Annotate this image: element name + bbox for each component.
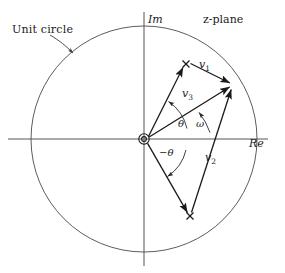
pole-lower-marker [187,213,194,220]
unit-circle-label: Unit circle [12,24,73,35]
figure-canvas: Unit circle z-plane Im Re v1 v2 v3 θ −θ … [0,0,285,273]
pole-upper-marker [183,61,190,68]
real-axis-label: Re [249,138,264,149]
angle-theta-label: θ [178,119,184,129]
unit-circle-pointer [50,35,73,53]
z-plane-label: z-plane [203,14,243,25]
vector-v2 [192,90,232,213]
vector-v2-label-sub: 2 [211,157,216,166]
vector-v3-label: v3 [182,88,193,102]
complex-plane-diagram [0,0,285,273]
imaginary-axis-label: Im [148,14,163,25]
angle-omega-label: ω [196,119,204,129]
angle-neg-theta-label: −θ [159,148,173,158]
vector-v3-label-sub: 3 [188,93,193,102]
vector-v1 [191,64,230,84]
vector-v1-label-sub: 1 [205,64,210,73]
vector-v1-label: v1 [199,59,210,73]
vector-v2-label: v2 [205,152,216,166]
